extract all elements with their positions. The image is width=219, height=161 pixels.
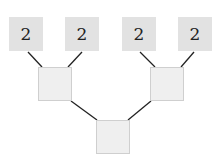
leaf-node-1: 2 bbox=[9, 17, 43, 51]
edge-leaf1-left bbox=[28, 52, 42, 67]
leaf-label: 2 bbox=[134, 24, 145, 44]
leaf-label: 2 bbox=[21, 24, 32, 44]
leaf-label: 2 bbox=[190, 24, 201, 44]
edge-leaf4-right bbox=[181, 52, 194, 67]
root-node bbox=[96, 120, 130, 154]
edge-right-root bbox=[128, 101, 151, 120]
edge-leaf3-right bbox=[140, 52, 155, 67]
leaf-label: 2 bbox=[77, 24, 88, 44]
edge-leaf2-left bbox=[68, 52, 82, 67]
inner-node-right bbox=[150, 67, 184, 101]
leaf-node-4: 2 bbox=[178, 17, 212, 51]
leaf-node-2: 2 bbox=[65, 17, 99, 51]
inner-node-left bbox=[38, 67, 72, 101]
edge-left-root bbox=[71, 101, 97, 120]
leaf-node-3: 2 bbox=[122, 17, 156, 51]
